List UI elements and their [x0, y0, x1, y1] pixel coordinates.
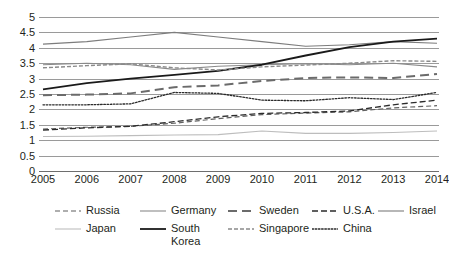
- y-axis-tick-label: 0.5: [20, 150, 35, 161]
- legend-swatch-japan-icon: [55, 222, 81, 235]
- legend-label: Singapore: [259, 222, 309, 235]
- legend-swatch-israel-icon: [378, 204, 404, 217]
- y-axis-tick-label: 5: [29, 12, 35, 23]
- legend-swatch-u-s-a--icon: [312, 204, 338, 217]
- series-line-russia: [43, 106, 437, 129]
- x-axis-tick-label: 2010: [250, 172, 274, 186]
- legend-label: Japan: [86, 222, 116, 235]
- y-axis: 00.511.522.533.544.55: [0, 0, 38, 196]
- y-axis-tick-label: 3.5: [20, 58, 35, 69]
- legend-swatch-south-korea-icon: [140, 222, 166, 235]
- legend-item-japan[interactable]: Japan: [55, 222, 116, 235]
- series-line-japan: [43, 131, 437, 137]
- legend-item-singapore[interactable]: Singapore: [228, 222, 309, 235]
- series-layer: [39, 0, 439, 196]
- x-axis-tick-label: 2014: [425, 172, 449, 186]
- x-axis-tick-label: 2013: [381, 172, 405, 186]
- x-axis: 2005200620072008200920102011201220132014: [39, 172, 439, 192]
- x-axis-tick-label: 2012: [337, 172, 361, 186]
- legend-item-china[interactable]: China: [312, 222, 372, 235]
- legend-item-sweden[interactable]: Sweden: [228, 204, 299, 217]
- legend-label: South Korea: [171, 222, 229, 248]
- x-axis-tick-label: 2008: [162, 172, 186, 186]
- series-line-sweden: [43, 74, 437, 95]
- legend-label: China: [343, 222, 372, 235]
- legend-item-russia[interactable]: Russia: [55, 204, 120, 217]
- legend-label: U.S.A.: [343, 204, 375, 217]
- y-axis-tick-label: 1: [29, 135, 35, 146]
- legend-swatch-sweden-icon: [228, 204, 254, 217]
- legend-label: Russia: [86, 204, 120, 217]
- legend-item-israel[interactable]: Israel: [378, 204, 436, 217]
- legend-label: Israel: [409, 204, 436, 217]
- x-axis-tick-label: 2007: [118, 172, 142, 186]
- y-axis-tick-label: 4: [29, 42, 35, 53]
- legend-swatch-germany-icon: [140, 204, 166, 217]
- y-axis-tick-label: 3: [29, 73, 35, 84]
- legend-label: Sweden: [259, 204, 299, 217]
- legend-label: Germany: [171, 204, 216, 217]
- legend-item-u-s-a-[interactable]: U.S.A.: [312, 204, 375, 217]
- y-axis-tick-label: 2.5: [20, 89, 35, 100]
- x-axis-tick-label: 2006: [75, 172, 99, 186]
- grid-and-series: [39, 0, 439, 196]
- chart-legend: RussiaGermanySwedenU.S.A.IsraelJapanSout…: [0, 196, 446, 261]
- legend-swatch-singapore-icon: [228, 222, 254, 235]
- legend-swatch-russia-icon: [55, 204, 81, 217]
- y-axis-tick-label: 2: [29, 104, 35, 115]
- x-axis-tick-label: 2005: [31, 172, 55, 186]
- plot-area: 00.511.522.533.544.55 200520062007200820…: [0, 0, 446, 196]
- legend-swatch-china-icon: [312, 222, 338, 235]
- y-axis-tick-label: 1.5: [20, 119, 35, 130]
- y-axis-tick-label: 4.5: [20, 27, 35, 38]
- legend-item-south-korea[interactable]: South Korea: [140, 222, 229, 248]
- x-axis-tick-label: 2009: [206, 172, 230, 186]
- legend-item-germany[interactable]: Germany: [140, 204, 216, 217]
- x-axis-tick-label: 2011: [294, 172, 318, 186]
